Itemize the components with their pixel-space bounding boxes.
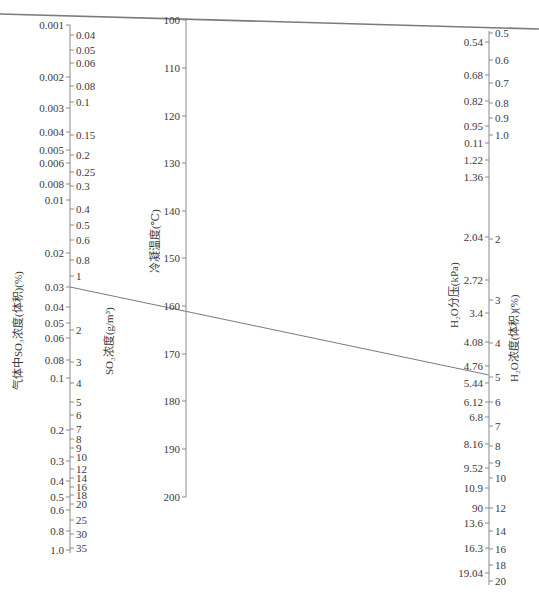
tick-label: 5 [76,396,82,408]
tick-label: 14 [495,525,507,537]
tick-label: 0.5 [50,491,64,503]
tick-label: 0.4 [76,203,90,215]
temperature-axis-title: 冷凝温度(℃) [148,209,162,273]
tick-label: 4.76 [464,360,484,372]
tick-label: 25 [76,514,88,526]
tick-label: 10 [76,451,88,463]
tick-label: 0.006 [39,157,64,169]
tick-label: 180 [164,395,181,407]
tick-label: 7 [495,420,501,432]
tick-label: 0.11 [464,137,483,149]
nomogram: 0.0010.0020.0030.0040.0050.0060.0080.010… [0,0,539,597]
tick-label: 30 [76,528,88,540]
tick-label: 100 [164,14,181,26]
tick-label: 0.3 [50,455,64,467]
tick-label: 1.0 [50,544,64,556]
tick-label: 0.04 [76,29,96,41]
tick-label: 0.003 [39,102,64,114]
tick-label: 0.8 [495,97,509,109]
tick-label: 5 [495,371,501,383]
tick-label: 0.03 [45,281,65,293]
tick-label: 3.4 [469,307,483,319]
tick-label: 0.02 [45,247,64,259]
tick-label: 0.25 [76,166,96,178]
tick-label: 5.44 [464,377,484,389]
tick-label: 0.1 [76,96,90,108]
tick-label: 1.36 [464,171,484,183]
tick-label: 0.2 [76,149,90,161]
tick-label: 140 [164,205,181,217]
tick-label: 0.68 [464,69,484,81]
tick-label: 170 [164,348,181,360]
tick-label: 2 [76,324,82,336]
tick-label: 130 [164,157,181,169]
tick-label: 0.004 [39,126,64,138]
tick-label: 12 [495,502,506,514]
top-line [0,14,539,29]
tick-label: 8 [495,440,501,452]
tick-label: 0.6 [76,234,90,246]
tick-label: 0.002 [39,71,64,83]
tick-label: 6 [76,409,82,421]
so3-volume-axis-title: 气体中SO₃浓度(体积)(%) [11,271,25,390]
tick-label: 200 [164,491,181,503]
tick-label: 0.08 [76,80,96,92]
tick-label: 16.3 [464,542,484,554]
tick-label: 0.06 [45,332,65,344]
example-line [70,287,489,375]
tick-label: 2.04 [464,231,484,243]
tick-label: 0.001 [39,19,64,31]
tick-label: 0.2 [50,424,64,436]
tick-label: 0.01 [45,194,64,206]
tick-label: 3 [495,294,501,306]
tick-label: 0.8 [76,254,90,266]
tick-label: 3 [76,356,82,368]
tick-label: 1.0 [495,129,509,141]
h2o-pressure-axis-title: H₂O分压(kPa) [448,262,461,328]
tick-label: 6.8 [469,411,483,423]
tick-label: 0.9 [495,112,509,124]
tick-label: 10.9 [464,482,484,494]
tick-label: 0.1 [50,372,64,384]
tick-label: 110 [164,62,181,74]
so3-axes: 0.0010.0020.0030.0040.0050.0060.0080.010… [39,19,96,556]
tick-label: 160 [164,300,181,312]
tick-label: 0.05 [76,44,96,56]
tick-label: 19.04 [458,567,483,579]
tick-label: 4 [495,337,501,349]
h2o-axes: 0.540.680.820.950.111.221.362.042.723.44… [458,27,509,587]
tick-label: 9.52 [464,462,483,474]
tick-label: 0.008 [39,178,64,190]
tick-label: 0.82 [464,95,483,107]
tick-label: 0.04 [45,301,65,313]
tick-label: 0.54 [464,36,484,48]
tick-label: 150 [164,252,181,264]
tick-label: 9 [495,457,501,469]
tick-label: 4 [76,377,82,389]
tick-label: 6 [495,396,501,408]
tick-label: 190 [164,443,181,455]
tick-label: 10 [495,472,507,484]
tick-label: 8.16 [464,438,484,450]
tick-label: 35 [76,542,88,554]
tick-label: 0.08 [45,354,65,366]
tick-label: 0.5 [495,27,509,39]
tick-label: 2.72 [464,274,483,286]
h2o-volume-axis-title: H₂O浓度(体积)(%) [507,294,521,382]
tick-label: 1.22 [464,154,483,166]
tick-label: 120 [164,110,181,122]
tick-label: 1 [76,270,82,282]
tick-label: 0.15 [76,129,96,141]
tick-label: 0.4 [50,475,64,487]
tick-label: 0.95 [464,120,484,132]
tick-label: 0.6 [495,54,509,66]
tick-label: 0.005 [39,144,64,156]
temperature-axis: 100110120130140150160170180190200 [164,14,187,503]
tick-label: 90 [472,502,484,514]
tick-label: 0.6 [50,504,64,516]
tick-label: 4.08 [464,336,484,348]
tick-label: 20 [495,575,507,587]
tick-label: 0.06 [76,57,96,69]
so3-mass-axis-title: SO₃浓度(g/m³) [102,307,116,375]
tick-label: 16 [495,543,507,555]
